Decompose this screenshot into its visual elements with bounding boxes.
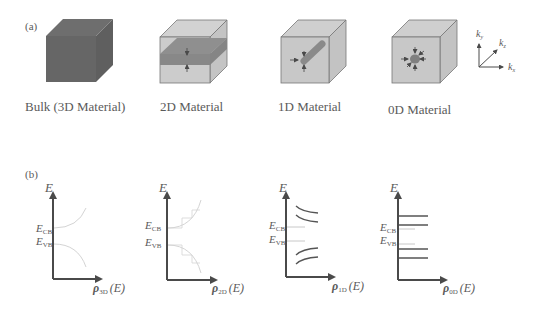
2d-material-cube-icon <box>160 20 227 83</box>
panel-a-label: (a) <box>25 20 38 33</box>
ky-label: ky <box>476 28 483 40</box>
dos-1d-plot <box>286 193 334 277</box>
0d-material-cube-icon <box>392 20 457 83</box>
energy-axis-label: E <box>278 180 287 195</box>
evb-label: EVB <box>379 234 397 248</box>
dos-1d-axis-label: ρ1D(E) <box>331 279 364 294</box>
0d-material-label: 0D Material <box>388 102 452 117</box>
evb-label: EVB <box>35 235 53 249</box>
dos-0d-plot <box>398 193 446 280</box>
energy-axis-label: E <box>389 180 398 195</box>
ecb-label: ECB <box>379 221 396 235</box>
evb-label: EVB <box>144 236 162 250</box>
kx-label: kx <box>508 61 515 73</box>
dos-3d-axis-label: ρ3D(E) <box>92 281 125 296</box>
2d-material-label: 2D Material <box>160 99 224 114</box>
dos-3d-plot <box>53 193 101 279</box>
evb-label: EVB <box>268 233 286 247</box>
dos-2d-axis-label: ρ2D(E) <box>211 281 244 296</box>
dos-0d-axis-label: ρ0D(E) <box>442 281 475 296</box>
dos-2d-plot <box>167 193 216 280</box>
kz-label: kz <box>499 37 506 49</box>
1d-material-cube-icon <box>281 20 346 83</box>
ecb-label: ECB <box>268 219 285 233</box>
energy-axis-label: E <box>44 180 53 195</box>
ecb-label: ECB <box>144 219 161 233</box>
ecb-label: ECB <box>35 222 52 236</box>
1d-material-label: 1D Material <box>278 99 342 114</box>
bulk-cube-icon <box>46 19 113 82</box>
energy-axis-label: E <box>158 180 167 195</box>
diagram-canvas: (a) Bulk (3D Material) 2D Material 1D Ma… <box>0 0 539 310</box>
panel-b-label: (b) <box>25 168 38 181</box>
bulk-material-label: Bulk (3D Material) <box>25 99 125 114</box>
